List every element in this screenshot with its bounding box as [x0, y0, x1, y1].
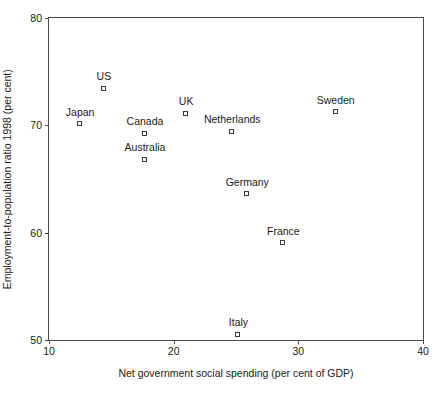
data-point-marker: [142, 157, 147, 162]
scatter-chart-figure: JapanUSCanadaAustraliaUKNetherlandsItaly…: [0, 0, 444, 393]
data-point-marker: [77, 121, 82, 126]
x-tick-mark: [423, 340, 424, 344]
y-tick-label: 80: [30, 13, 42, 24]
y-tick-mark: [45, 18, 49, 19]
data-point-label: Canada: [127, 116, 164, 127]
data-point-label: Germany: [226, 177, 269, 188]
data-point-label: Sweden: [317, 95, 355, 106]
data-point-label: Japan: [66, 107, 95, 118]
data-point-label: US: [97, 71, 112, 82]
data-point-label: Italy: [229, 317, 248, 328]
data-point-marker: [244, 191, 249, 196]
y-axis-title: Employment-to-population ratio 1998 (per…: [0, 17, 14, 341]
plot-area: JapanUSCanadaAustraliaUKNetherlandsItaly…: [48, 17, 424, 341]
data-point-label: UK: [179, 96, 194, 107]
x-tick-mark: [298, 340, 299, 344]
x-axis-title: Net government social spending (per cent…: [48, 368, 424, 379]
data-point-label: Australia: [125, 142, 166, 153]
x-tick-label: 20: [168, 346, 180, 357]
data-point-marker: [183, 111, 188, 116]
y-tick-label: 70: [30, 120, 42, 131]
x-tick-label: 40: [417, 346, 429, 357]
y-tick-label: 60: [30, 227, 42, 238]
data-point-marker: [235, 332, 240, 337]
data-point-marker: [333, 109, 338, 114]
data-point-label: Netherlands: [204, 114, 261, 125]
y-tick-mark: [45, 233, 49, 234]
data-point-label: France: [267, 226, 300, 237]
y-tick-label: 50: [30, 335, 42, 346]
y-tick-mark: [45, 340, 49, 341]
x-tick-mark: [174, 340, 175, 344]
x-tick-mark: [49, 340, 50, 344]
x-tick-label: 30: [292, 346, 304, 357]
y-axis-title-text: Employment-to-population ratio 1998 (per…: [2, 69, 13, 289]
data-point-marker: [229, 129, 234, 134]
data-point-marker: [280, 240, 285, 245]
x-tick-label: 10: [43, 346, 55, 357]
y-tick-mark: [45, 125, 49, 126]
data-point-marker: [101, 86, 106, 91]
data-point-marker: [142, 131, 147, 136]
